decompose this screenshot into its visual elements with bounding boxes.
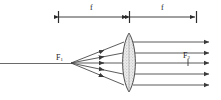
incident-ray-2: [71, 53, 123, 63]
dimension-right-focal-length: [130, 11, 197, 23]
figure-canvas: f f F1 F2: [0, 0, 221, 100]
incident-ray-5: [71, 63, 124, 85]
incident-ray-1: [71, 42, 124, 63]
dimension-left-focal-length: [59, 11, 128, 23]
dimension-label-left-f: f: [90, 4, 93, 12]
incident-arrow-4: [99, 69, 104, 70]
incident-ray-arrowheads: [99, 50, 104, 77]
front-focal-point-subscript: 1: [60, 57, 62, 62]
incident-arrow-2: [99, 57, 104, 58]
incident-arrow-5: [99, 75, 104, 77]
rear-focal-point-label: F2: [183, 52, 190, 61]
rear-focal-point-subscript: 2: [187, 55, 189, 60]
ray-diagram-svg: [0, 0, 221, 100]
front-focal-point-label: F1: [56, 54, 63, 63]
emergent-rays: [133, 42, 209, 85]
incident-rays: [71, 42, 124, 85]
dimension-label-right-f: f: [161, 4, 164, 12]
incident-ray-4: [71, 63, 123, 74]
